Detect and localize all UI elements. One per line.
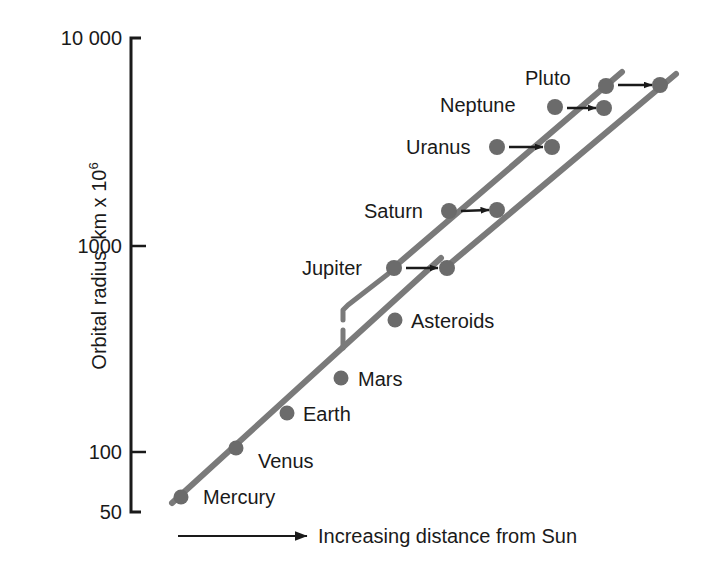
y-axis-title-main: Orbital radius km x 10: [88, 170, 110, 370]
point-label-jupiter: Jupiter: [302, 258, 362, 278]
point-label-mars: Mars: [358, 369, 402, 389]
shift-arrow-saturn: [461, 210, 489, 211]
point-label-mercury: Mercury: [203, 487, 275, 507]
orbital-radius-chart: 10 000 1000 100 50 Orbital radius km x 1…: [0, 0, 701, 584]
x-axis-caption: Increasing distance from Sun: [318, 526, 577, 546]
y-tick-label-100: 100: [22, 442, 122, 462]
y-axis-title: Orbital radius km x 106: [88, 116, 111, 416]
marker-saturn-actual[interactable]: [489, 202, 505, 218]
y-tick-label-50: 50: [22, 502, 122, 522]
marker-uranus-bode[interactable]: [489, 139, 505, 155]
point-label-asteroids: Asteroids: [411, 311, 494, 331]
point-label-earth: Earth: [303, 404, 351, 424]
y-tick-label-10000: 10 000: [22, 28, 122, 48]
marker-jupiter-bode[interactable]: [386, 260, 402, 276]
point-label-neptune: Neptune: [440, 95, 516, 115]
point-label-uranus: Uranus: [406, 137, 470, 157]
marker-pluto-bode[interactable]: [598, 78, 614, 94]
y-axis-spine: [131, 38, 141, 512]
marker-pluto-actual[interactable]: [652, 77, 668, 93]
marker-neptune-bode[interactable]: [547, 99, 563, 115]
marker-mercury[interactable]: [174, 490, 189, 505]
marker-mars[interactable]: [334, 371, 349, 386]
marker-uranus-actual[interactable]: [544, 139, 560, 155]
marker-asteroids[interactable]: [388, 313, 403, 328]
marker-venus[interactable]: [229, 441, 244, 456]
point-label-saturn: Saturn: [364, 201, 423, 221]
marker-neptune-actual[interactable]: [596, 100, 612, 116]
marker-saturn-bode[interactable]: [441, 203, 457, 219]
y-axis-title-exponent: 6: [86, 162, 101, 169]
y-axis: [131, 38, 146, 512]
marker-jupiter-actual[interactable]: [439, 260, 455, 276]
marker-earth[interactable]: [280, 406, 295, 421]
point-label-venus: Venus: [258, 451, 314, 471]
point-label-pluto: Pluto: [525, 68, 571, 88]
